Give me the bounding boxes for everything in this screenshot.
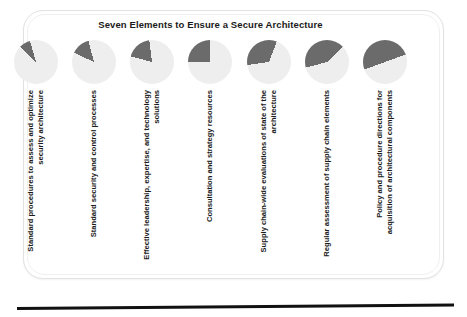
element-label-wrap: Standard procedures to assess and optimi… <box>8 90 63 262</box>
element-label-4: Consultation and strategy resources <box>205 90 215 260</box>
element-label-wrap: Regular assessment of supply chain eleme… <box>300 90 355 262</box>
pie-slice <box>305 40 349 84</box>
pie-chart-6 <box>305 40 349 84</box>
elements-row: Standard procedures to assess and optimi… <box>8 40 413 268</box>
element-column: Standard security and control processes <box>66 40 121 262</box>
element-label-2: Standard security and control processes <box>89 90 99 260</box>
pie-slice <box>72 40 116 84</box>
bottom-divider-rule <box>17 304 454 310</box>
element-label-wrap: Policy and procedure directions for acqu… <box>358 90 413 262</box>
element-label-3: Effective leadership, expertise, and tec… <box>142 90 162 260</box>
element-column: Policy and procedure directions for acqu… <box>358 40 413 262</box>
pie-slice <box>188 40 232 84</box>
pie-chart-2 <box>72 40 116 84</box>
element-column: Standard procedures to assess and optimi… <box>8 40 63 262</box>
element-column: Consultation and strategy resources <box>183 40 238 262</box>
element-column: Regular assessment of supply chain eleme… <box>300 40 355 262</box>
element-label-wrap: Standard security and control processes <box>66 90 121 262</box>
element-label-7: Policy and procedure directions for acqu… <box>375 90 395 260</box>
element-label-wrap: Consultation and strategy resources <box>183 90 238 262</box>
element-column: Effective leadership, expertise, and tec… <box>125 40 180 262</box>
pie-chart-1 <box>14 40 58 84</box>
element-label-wrap: Supply chain-wide evaluations of state o… <box>241 90 296 262</box>
element-label-5: Supply chain-wide evaluations of state o… <box>259 90 279 260</box>
element-column: Supply chain-wide evaluations of state o… <box>241 40 296 262</box>
pie-chart-4 <box>188 40 232 84</box>
pie-slice <box>363 40 407 84</box>
slide-canvas: Seven Elements to Ensure a Secure Archit… <box>0 0 467 317</box>
element-label-1: Standard procedures to assess and optimi… <box>26 90 46 260</box>
page-title: Seven Elements to Ensure a Secure Archit… <box>0 19 421 30</box>
pie-slice <box>130 40 174 84</box>
pie-chart-3 <box>130 40 174 84</box>
pie-slice <box>247 40 291 84</box>
element-label-6: Regular assessment of supply chain eleme… <box>322 90 332 260</box>
pie-chart-7 <box>363 40 407 84</box>
pie-slice <box>14 40 58 84</box>
element-label-wrap: Effective leadership, expertise, and tec… <box>125 90 180 262</box>
pie-chart-5 <box>247 40 291 84</box>
